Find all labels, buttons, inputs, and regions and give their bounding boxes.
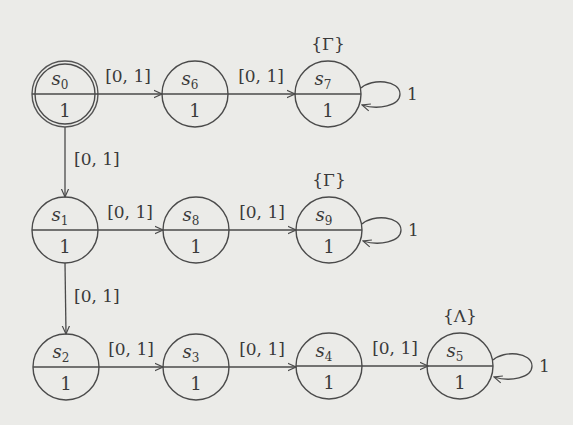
state-reward: 1 — [59, 100, 70, 121]
set-label-s9: {Γ} — [312, 170, 345, 190]
state-name: s3 — [183, 341, 200, 365]
edge-s4-s5: [0, 1] — [362, 338, 428, 366]
loop-label: 1 — [407, 84, 418, 104]
edge-label: [0, 1] — [239, 339, 285, 359]
state-name: s9 — [316, 204, 333, 228]
edge-label: [0, 1] — [74, 149, 120, 169]
state-name: s8 — [183, 204, 200, 228]
edge-label: [0, 1] — [74, 286, 120, 306]
self-loop-s5: 1 — [493, 354, 550, 379]
state-diagram: [0, 1] [0, 1] [0, 1] [0, 1] [0, 1] [0, 1… — [0, 0, 573, 425]
edge-label: [0, 1] — [107, 202, 153, 222]
edge-s8-s9: [0, 1] — [229, 202, 296, 230]
self-loop-s7: 1 — [361, 82, 418, 107]
state-reward: 1 — [59, 236, 70, 257]
state-reward: 1 — [323, 372, 334, 393]
state-reward: 1 — [454, 372, 465, 393]
edge-label: [0, 1] — [239, 202, 285, 222]
edge-s0-s6: [0, 1] — [97, 66, 162, 94]
state-s6: s6 1 — [162, 61, 228, 127]
edge-label: [0, 1] — [238, 66, 284, 86]
edge-s3-s4: [0, 1] — [229, 339, 296, 367]
state-s1: s1 1 — [32, 197, 98, 263]
state-s3: s3 1 — [163, 334, 229, 400]
state-name: s0 — [52, 68, 69, 92]
loop-label: 1 — [539, 356, 550, 376]
edge-s1-s8: [0, 1] — [98, 202, 163, 230]
edge-s6-s7: [0, 1] — [228, 66, 295, 94]
state-s5: s5 1 — [427, 333, 493, 399]
state-reward: 1 — [190, 373, 201, 394]
state-reward: 1 — [60, 373, 71, 394]
state-reward: 1 — [322, 100, 333, 121]
state-name: s7 — [315, 68, 332, 92]
state-s0: s0 1 — [32, 61, 98, 127]
loop-label: 1 — [408, 220, 419, 240]
edge-label: [0, 1] — [105, 66, 151, 86]
state-name: s6 — [182, 68, 199, 92]
state-s9: s9 1 — [296, 197, 362, 263]
state-name: s2 — [53, 341, 70, 365]
state-reward: 1 — [323, 236, 334, 257]
edge-s0-s1: [0, 1] — [65, 127, 120, 197]
edge-label: [0, 1] — [108, 339, 154, 359]
state-reward: 1 — [189, 100, 200, 121]
set-label-s5: {Λ} — [443, 306, 477, 326]
state-name: s5 — [447, 340, 464, 364]
edge-s2-s3: [0, 1] — [99, 339, 163, 367]
edge-label: [0, 1] — [372, 338, 418, 358]
state-name: s4 — [316, 340, 333, 364]
edge-s1-s2: [0, 1] — [65, 263, 120, 334]
state-s8: s8 1 — [163, 197, 229, 263]
state-s7: s7 1 — [295, 61, 361, 127]
state-name: s1 — [52, 204, 69, 228]
state-reward: 1 — [190, 236, 201, 257]
self-loop-s9: 1 — [362, 218, 419, 243]
state-s4: s4 1 — [296, 333, 362, 399]
state-s2: s2 1 — [33, 334, 99, 400]
set-label-s7: {Γ} — [311, 34, 344, 54]
